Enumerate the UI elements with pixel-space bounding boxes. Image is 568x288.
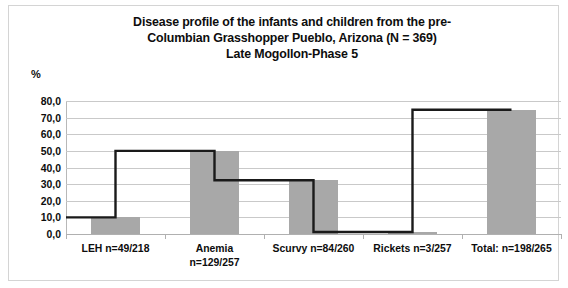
x-axis-label-line: Total: n=198/265 xyxy=(440,242,568,256)
bar xyxy=(91,217,141,234)
bar xyxy=(289,180,339,234)
chart-title: Disease profile of the infants and child… xyxy=(55,14,529,63)
x-axis-tick xyxy=(264,234,265,239)
y-axis-tick-label: 10,0 xyxy=(19,212,61,223)
x-axis-tick xyxy=(165,234,166,239)
plot-area xyxy=(66,101,561,234)
y-axis-tick-label: 70,0 xyxy=(19,112,61,123)
gridline xyxy=(66,101,561,102)
y-axis-tick-label: 80,0 xyxy=(19,96,61,107)
y-axis-title: % xyxy=(31,68,41,80)
x-axis-label-line: n=129/257 xyxy=(143,256,286,270)
x-axis-tick xyxy=(561,234,562,239)
x-axis-category-label: Total: n=198/265 xyxy=(440,242,568,256)
y-axis-tick-label: 60,0 xyxy=(19,129,61,140)
y-axis-tick-labels: 80,070,060,050,040,030,020,010,00,0 xyxy=(17,101,61,234)
y-axis-tick-label: 50,0 xyxy=(19,145,61,156)
y-axis-tick-label: 20,0 xyxy=(19,195,61,206)
y-axis-tick-label: 30,0 xyxy=(19,179,61,190)
chart-frame: Disease profile of the infants and child… xyxy=(8,5,559,281)
y-axis-tick-label: 40,0 xyxy=(19,162,61,173)
bar xyxy=(388,232,438,234)
x-axis-tick xyxy=(66,234,67,239)
x-axis-tick xyxy=(462,234,463,239)
chart-title-line-3: Late Mogollon-Phase 5 xyxy=(55,46,529,62)
chart-title-line-2: Columbian Grasshopper Pueblo, Arizona (N… xyxy=(55,30,529,46)
bar xyxy=(487,110,537,234)
x-axis-tick xyxy=(363,234,364,239)
chart-title-line-1: Disease profile of the infants and child… xyxy=(55,14,529,30)
gridline xyxy=(66,234,561,235)
y-axis-tick-label: 0,0 xyxy=(19,229,61,240)
bar xyxy=(190,151,240,234)
